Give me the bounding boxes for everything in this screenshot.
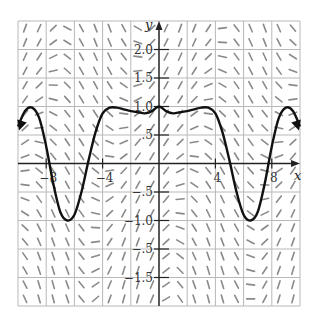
- axes: [18, 21, 300, 306]
- y-axis-label: y: [144, 17, 153, 32]
- y-tick-label: −.5: [131, 185, 153, 199]
- x-tick-label: 8: [270, 171, 278, 185]
- x-tick-label: −8: [39, 171, 57, 185]
- x-tick-label: 4: [214, 171, 222, 185]
- y-tick-label: 2.0: [134, 43, 153, 57]
- slope-field-chart: −8−4482.01.51.0.5−.5−1.0−.5−1.5 x y: [0, 0, 310, 321]
- x-tick-label: −4: [96, 171, 114, 185]
- y-tick-label: .5: [142, 128, 153, 142]
- y-tick-label: 1.5: [134, 71, 153, 85]
- x-axis-label: x: [294, 168, 302, 183]
- y-tick-label: −.5: [131, 242, 153, 256]
- y-tick-label: −1.0: [124, 214, 153, 228]
- y-tick-label: −1.5: [124, 271, 153, 285]
